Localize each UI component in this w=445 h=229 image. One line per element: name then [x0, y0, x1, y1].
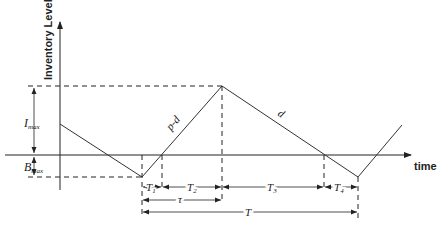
t4-label: T4 [334, 181, 344, 195]
inventory-cycle-diagram: Inventory Level time Imax Bmax p-d d T1 … [0, 0, 445, 229]
tau-label: τ [178, 193, 183, 205]
x-axis-label: time [414, 160, 437, 172]
t2-label: T2 [187, 181, 197, 195]
t1-label: T1 [146, 181, 156, 195]
t3-label: T3 [267, 181, 277, 195]
falling-slope-label: d [276, 107, 288, 120]
rising-slope-label: p-d [163, 113, 183, 133]
y-axis-label: Inventory Level [42, 0, 54, 80]
imax-label: Imax [23, 116, 41, 131]
cycle-label: T [245, 206, 252, 218]
inventory-curve [60, 86, 402, 177]
